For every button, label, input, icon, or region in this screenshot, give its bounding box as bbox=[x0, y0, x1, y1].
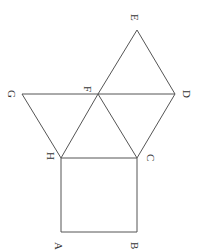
segment-ED bbox=[137, 30, 175, 94]
point-label-G: G bbox=[6, 90, 18, 98]
point-label-F: F bbox=[82, 86, 94, 92]
segment-HF bbox=[61, 94, 98, 158]
segment-GH bbox=[22, 94, 61, 158]
labels: ABCHGFDE bbox=[6, 14, 193, 250]
point-label-A: A bbox=[53, 242, 65, 250]
segment-FC bbox=[98, 94, 137, 158]
geometry-diagram: ABCHGFDE bbox=[0, 0, 202, 252]
segment-CD bbox=[137, 94, 175, 158]
edges bbox=[22, 30, 175, 232]
point-label-D: D bbox=[181, 90, 193, 98]
point-label-C: C bbox=[145, 154, 157, 161]
point-label-B: B bbox=[129, 242, 141, 249]
point-label-E: E bbox=[129, 14, 141, 21]
segment-FE bbox=[98, 30, 137, 94]
point-label-H: H bbox=[45, 152, 57, 160]
